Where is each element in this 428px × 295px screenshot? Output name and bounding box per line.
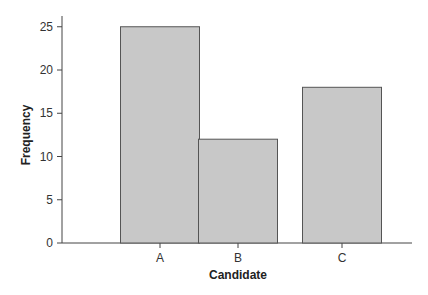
y-tick-label: 0	[46, 236, 53, 250]
bar-a	[121, 27, 200, 243]
x-tick-label: A	[156, 251, 164, 265]
bars	[121, 27, 382, 243]
y-axis-title: Frequency	[19, 104, 33, 165]
y-tick-label: 20	[40, 63, 54, 77]
y-tick-label: 25	[40, 20, 54, 34]
x-axis-title: Candidate	[209, 268, 267, 282]
y-tick-label: 15	[40, 106, 54, 120]
x-tick-label: B	[234, 251, 242, 265]
y-tick-label: 10	[40, 150, 54, 164]
bar-b	[199, 139, 278, 243]
x-tick-label: C	[338, 251, 347, 265]
bar-chart: 0510152025ABC Candidate Frequency	[0, 0, 428, 295]
y-tick-label: 5	[46, 193, 53, 207]
bar-c	[303, 87, 382, 243]
